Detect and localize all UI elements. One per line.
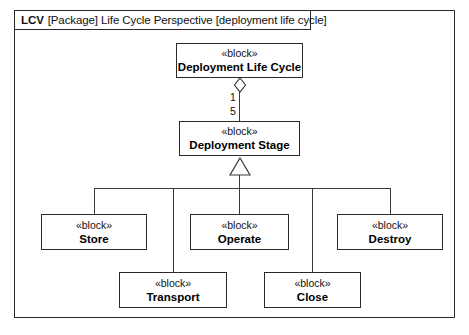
aggregation-diamond-icon	[233, 77, 247, 93]
block-stereotype: «block»	[155, 277, 191, 290]
block-transport[interactable]: «block» Transport	[119, 272, 227, 308]
block-store[interactable]: «block» Store	[41, 214, 147, 250]
block-name: Operate	[218, 232, 261, 246]
block-name: Deployment Stage	[189, 138, 289, 152]
generalization-drop-store	[94, 188, 95, 214]
block-destroy[interactable]: «block» Destroy	[337, 214, 443, 250]
generalization-drop-transport	[173, 188, 174, 272]
multiplicity-part: 5	[229, 106, 237, 117]
generalization-drop-close	[312, 188, 313, 272]
block-name: Close	[297, 290, 328, 304]
block-stereotype: «block»	[372, 219, 408, 232]
diagram-canvas: 1 5 «block» Deployment Life Cycle «block…	[0, 0, 469, 335]
block-stereotype: «block»	[221, 47, 257, 60]
block-name: Destroy	[369, 232, 412, 246]
aggregation-connector-line	[239, 89, 240, 121]
package-frame-header: LCV [Package] Life Cycle Perspective [de…	[14, 10, 311, 30]
generalization-bus-line	[94, 188, 390, 189]
block-stereotype: «block»	[294, 277, 330, 290]
block-operate[interactable]: «block» Operate	[190, 214, 289, 250]
block-stereotype: «block»	[221, 125, 257, 138]
block-name: Deployment Life Cycle	[178, 60, 301, 74]
block-deployment-life-cycle[interactable]: «block» Deployment Life Cycle	[176, 43, 303, 78]
package-frame-title: [Package] Life Cycle Perspective [deploy…	[48, 14, 327, 26]
block-deployment-stage[interactable]: «block» Deployment Stage	[179, 121, 300, 156]
block-stereotype: «block»	[76, 219, 112, 232]
block-name: Transport	[146, 290, 199, 304]
generalization-drop-operate	[239, 188, 240, 214]
block-close[interactable]: «block» Close	[264, 272, 361, 308]
block-name: Store	[79, 232, 108, 246]
package-frame-id: LCV	[21, 14, 44, 26]
multiplicity-whole: 1	[229, 92, 237, 103]
block-stereotype: «block»	[221, 219, 257, 232]
generalization-triangle-icon	[228, 157, 252, 177]
generalization-drop-destroy	[390, 188, 391, 214]
